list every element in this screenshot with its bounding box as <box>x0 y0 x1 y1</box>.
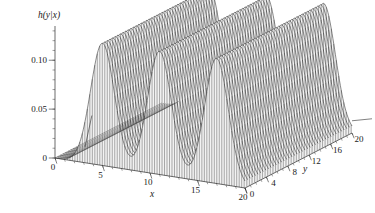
plot-scene <box>55 0 372 188</box>
z-ticklabel: 0 <box>43 153 48 163</box>
z-axis-title: h(y|x) <box>38 10 60 21</box>
y-axis-title: y <box>302 164 308 174</box>
y-ticklabel: 12 <box>312 156 321 166</box>
z-ticklabel: 0.10 <box>31 55 47 65</box>
y-ticklabel: 4 <box>271 178 276 188</box>
z-axis: 00.050.10 h(y|x) <box>31 10 60 163</box>
x-axis-title: x <box>149 189 155 199</box>
y-ticklabel: 16 <box>333 145 343 155</box>
x-ticklabel: 15 <box>191 185 201 195</box>
z-reference-stub-right <box>352 119 372 121</box>
y-ticklabel: 0 <box>250 189 255 199</box>
z-ticklabel: 0.05 <box>31 104 47 114</box>
x-ticklabel: 10 <box>144 177 154 187</box>
z-axis-ticks <box>49 31 55 158</box>
x-ticklabel: 0 <box>51 162 56 172</box>
z-axis-ticklabels: 00.050.10 <box>31 55 47 163</box>
y-ticklabel: 20 <box>355 134 365 144</box>
surface-plot-canvas: 00.050.10 h(y|x) 05101520 x 048121620 y <box>0 0 375 213</box>
y-ticklabel: 8 <box>293 167 298 177</box>
x-ticklabel: 20 <box>239 192 249 202</box>
x-ticklabel: 5 <box>98 170 103 180</box>
figure-panel: 00.050.10 h(y|x) 05101520 x 048121620 y <box>0 0 375 213</box>
